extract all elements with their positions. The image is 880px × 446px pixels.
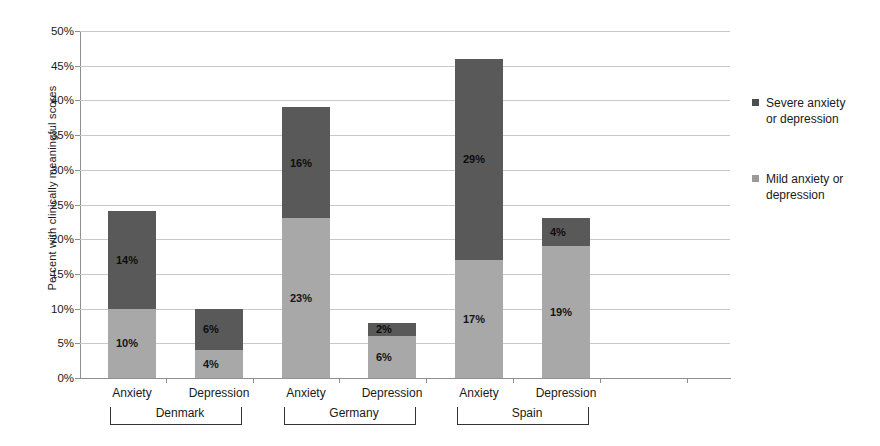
x-tick-mark <box>513 378 514 383</box>
bar-segment-label: 14% <box>116 254 138 266</box>
gridline <box>80 66 730 67</box>
bar-segment-mild[interactable]: 10% <box>108 309 156 378</box>
y-axis-tick-labels: 50% 45% 40% 35% 30% 25% 20% 15% 10% 5% 0… <box>28 0 74 446</box>
y-tick-label: 0% <box>32 372 74 384</box>
bar-segment-label: 17% <box>463 313 485 325</box>
legend-label-mild-line1: Mild anxiety or <box>766 171 880 187</box>
legend-item-mild[interactable]: Mild anxiety or depression <box>752 171 880 203</box>
bar-segment-label: 19% <box>550 306 572 318</box>
x-category-label-germany-depression: Depression <box>347 386 437 400</box>
group-label-spain: Spain <box>478 406 576 420</box>
x-category-label-spain-anxiety: Anxiety <box>434 386 524 400</box>
chart-legend: Severe anxiety or depression Mild anxiet… <box>752 95 880 247</box>
bar-segment-mild[interactable]: 17% <box>455 260 503 378</box>
bar-segment-severe[interactable]: 14% <box>108 211 156 308</box>
gridline <box>80 205 730 206</box>
y-tick-label: 5% <box>32 337 74 349</box>
legend-label-mild-line2: depression <box>766 187 880 203</box>
x-tick-mark <box>253 378 254 383</box>
bar-segment-severe[interactable]: 2% <box>368 323 416 337</box>
gridline <box>80 309 730 310</box>
x-category-label-germany-anxiety: Anxiety <box>261 386 351 400</box>
bar-segment-mild[interactable]: 6% <box>368 336 416 378</box>
y-tick-label: 20% <box>32 233 74 245</box>
bar-segment-mild[interactable]: 4% <box>195 350 243 378</box>
bar-segment-mild[interactable]: 23% <box>282 218 330 378</box>
y-tick-label: 10% <box>32 303 74 315</box>
x-tick-mark <box>339 378 340 383</box>
gridline <box>80 239 730 240</box>
x-category-label-spain-depression: Depression <box>521 386 611 400</box>
y-tick-label: 50% <box>32 25 74 37</box>
bar-spain-depression[interactable]: 4% 19% <box>542 218 590 378</box>
y-tick-label: 40% <box>32 94 74 106</box>
y-tick-label: 15% <box>32 268 74 280</box>
x-tick-mark <box>166 378 167 383</box>
plot-area: 14% 10% 6% 4% 16% 23% <box>80 31 730 378</box>
bar-segment-label: 16% <box>290 157 312 169</box>
bar-germany-depression[interactable]: 2% 6% <box>368 323 416 378</box>
x-category-label-denmark-anxiety: Anxiety <box>87 386 177 400</box>
bar-segment-label: 6% <box>376 351 392 363</box>
bar-segment-label: 6% <box>203 323 219 335</box>
bar-segment-label: 23% <box>290 292 312 304</box>
x-tick-mark <box>600 378 601 383</box>
x-axis-line <box>80 378 731 379</box>
bar-segment-severe[interactable]: 16% <box>282 107 330 218</box>
y-tick-label: 25% <box>32 199 74 211</box>
legend-swatch-mild-icon <box>752 175 759 182</box>
bar-germany-anxiety[interactable]: 16% 23% <box>282 107 330 378</box>
bar-segment-label: 10% <box>116 337 138 349</box>
group-label-denmark: Denmark <box>131 406 229 420</box>
gridline <box>80 100 730 101</box>
legend-item-severe[interactable]: Severe anxiety or depression <box>752 95 880 127</box>
x-tick-mark <box>687 378 688 383</box>
y-tick-label: 30% <box>32 164 74 176</box>
bar-denmark-depression[interactable]: 6% 4% <box>195 309 243 378</box>
x-tick-mark <box>426 378 427 383</box>
bar-segment-mild[interactable]: 19% <box>542 246 590 378</box>
bar-segment-severe[interactable]: 29% <box>455 59 503 260</box>
legend-swatch-severe-icon <box>752 99 759 106</box>
bar-segment-label: 4% <box>550 226 566 238</box>
bar-spain-anxiety[interactable]: 29% 17% <box>455 59 503 378</box>
gridline <box>80 170 730 171</box>
chart-page: Percent with clinically meaningful score… <box>0 0 880 446</box>
gridline <box>80 31 730 32</box>
group-label-germany: Germany <box>305 406 403 420</box>
bar-denmark-anxiety[interactable]: 14% 10% <box>108 211 156 378</box>
legend-label-severe-line2: or depression <box>766 111 880 127</box>
legend-label-severe-line1: Severe anxiety <box>766 95 880 111</box>
bar-segment-severe[interactable]: 4% <box>542 218 590 246</box>
x-category-label-denmark-depression: Depression <box>174 386 264 400</box>
gridline <box>80 274 730 275</box>
gridline <box>80 135 730 136</box>
bar-segment-label: 2% <box>376 323 392 335</box>
bar-segment-severe[interactable]: 6% <box>195 309 243 351</box>
y-tick-label: 45% <box>32 60 74 72</box>
y-tick-label: 35% <box>32 129 74 141</box>
bar-segment-label: 29% <box>463 153 485 165</box>
bar-segment-label: 4% <box>203 358 219 370</box>
